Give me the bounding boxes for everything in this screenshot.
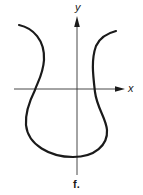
graph-canvas xyxy=(0,0,143,195)
x-axis-label: x xyxy=(128,83,134,94)
figure-caption: f. xyxy=(73,179,80,190)
x-axis-arrow-icon xyxy=(115,86,125,92)
y-axis-arrow-icon xyxy=(74,16,80,27)
y-axis-label: y xyxy=(75,2,81,13)
y-axis xyxy=(74,16,80,175)
curve xyxy=(19,25,116,157)
graph-figure: y x f. xyxy=(0,0,143,195)
x-axis xyxy=(14,86,125,92)
